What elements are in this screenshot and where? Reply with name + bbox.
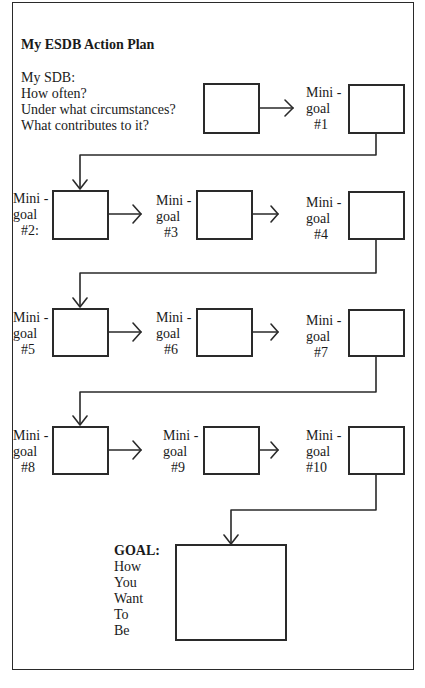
connector-arrows — [0, 0, 425, 688]
arrow-right-icon — [253, 324, 278, 340]
arrow-right-icon — [253, 206, 278, 222]
arrow-right-icon — [260, 100, 293, 116]
arrow-right-icon — [109, 441, 141, 459]
arrow-down-icon — [224, 475, 376, 544]
arrow-down-icon — [73, 134, 376, 189]
arrow-right-icon — [109, 323, 141, 341]
arrow-right-icon — [109, 205, 141, 223]
arrow-down-icon — [73, 357, 376, 425]
arrow-right-icon — [260, 442, 278, 458]
arrow-down-icon — [73, 240, 376, 307]
